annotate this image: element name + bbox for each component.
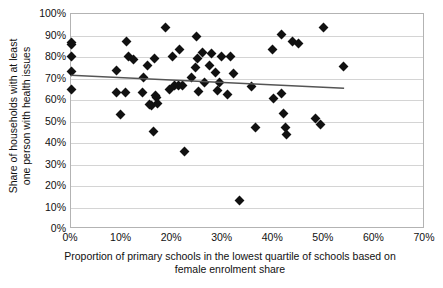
scatter-chart: Share of households with at least one pe… [0,0,443,288]
y-axis-title-line-1: Share of households with at least [7,39,20,194]
x-tick-label: 60% [351,231,395,243]
trendline [71,14,425,229]
y-tick-label: 70% [30,73,66,83]
x-tick-label: 20% [149,231,193,243]
y-tick-label: 100% [30,8,66,18]
plot-area [70,13,424,228]
x-tick-label: 30% [200,231,244,243]
y-tick-label: 10% [30,202,66,212]
y-tick-label: 90% [30,30,66,40]
y-tick-label: 50% [30,116,66,126]
y-tick-label: 40% [30,137,66,147]
x-axis-title-line-1: Proportion of primary schools in the low… [40,250,420,263]
x-tick-label: 50% [301,231,345,243]
x-tick-label: 70% [402,231,443,243]
y-tick-label: 60% [30,94,66,104]
x-axis-title: Proportion of primary schools in the low… [40,250,420,276]
x-axis-tick-labels: 0%10%20%30%40%50%60%70% [0,231,443,247]
x-tick-label: 10% [99,231,143,243]
x-tick-label: 0% [48,231,92,243]
y-tick-label: 30% [30,159,66,169]
y-tick-label: 80% [30,51,66,61]
y-tick-label: 20% [30,180,66,190]
x-tick-label: 40% [250,231,294,243]
x-axis-title-line-2: female enrolment share [40,263,420,276]
